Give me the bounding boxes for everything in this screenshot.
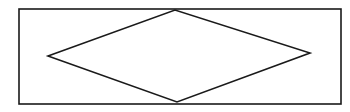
diagram-canvas bbox=[0, 0, 350, 112]
outer-rectangle bbox=[19, 9, 341, 104]
inner-rhombus bbox=[48, 10, 310, 102]
